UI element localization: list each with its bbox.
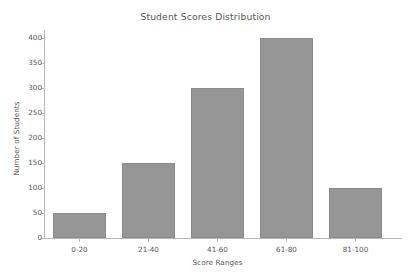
x-axis-spine: [44, 238, 402, 239]
plot-area: 050100150200250300350400 0-2021-4041-606…: [45, 38, 390, 238]
bar-61-80: [260, 38, 312, 238]
x-axis-label: Score Ranges: [45, 258, 390, 267]
bar-21-40: [122, 163, 174, 238]
y-axis-tick-label: 200: [28, 133, 42, 142]
x-axis-tick-label: 61-80: [276, 245, 297, 254]
y-axis-tick-label: 350: [28, 58, 42, 67]
y-axis-tick-label: 150: [28, 158, 42, 167]
x-axis-tick-label: 81-100: [343, 245, 368, 254]
y-axis-spine: [44, 30, 45, 239]
y-axis-label: Number of Students: [12, 101, 21, 175]
x-axis-tick-mark: [79, 238, 80, 242]
y-axis-tick-label: 50: [33, 208, 42, 217]
x-axis-tick-label: 41-60: [207, 245, 228, 254]
x-axis-tick-mark: [217, 238, 218, 242]
x-axis-tick-mark: [148, 238, 149, 242]
page-title: Student Scores Distribution: [0, 11, 411, 22]
x-axis-tick-label: 21-40: [138, 245, 159, 254]
y-axis-tick-label: 0: [37, 233, 42, 242]
y-axis-tick-label: 100: [28, 183, 42, 192]
y-axis-tick-label: 400: [28, 33, 42, 42]
bar-41-60: [191, 88, 243, 238]
y-axis-tick-label: 300: [28, 83, 42, 92]
bar-0-20: [53, 213, 105, 238]
x-axis-tick-label: 0-20: [71, 245, 87, 254]
y-axis-tick-label: 250: [28, 108, 42, 117]
y-axis-label-container: Number of Students: [9, 38, 23, 238]
chart-figure: Student Scores Distribution Number of St…: [0, 0, 411, 277]
x-axis-tick-mark: [286, 238, 287, 242]
bar-81-100: [329, 188, 381, 238]
x-axis-tick-mark: [355, 238, 356, 242]
